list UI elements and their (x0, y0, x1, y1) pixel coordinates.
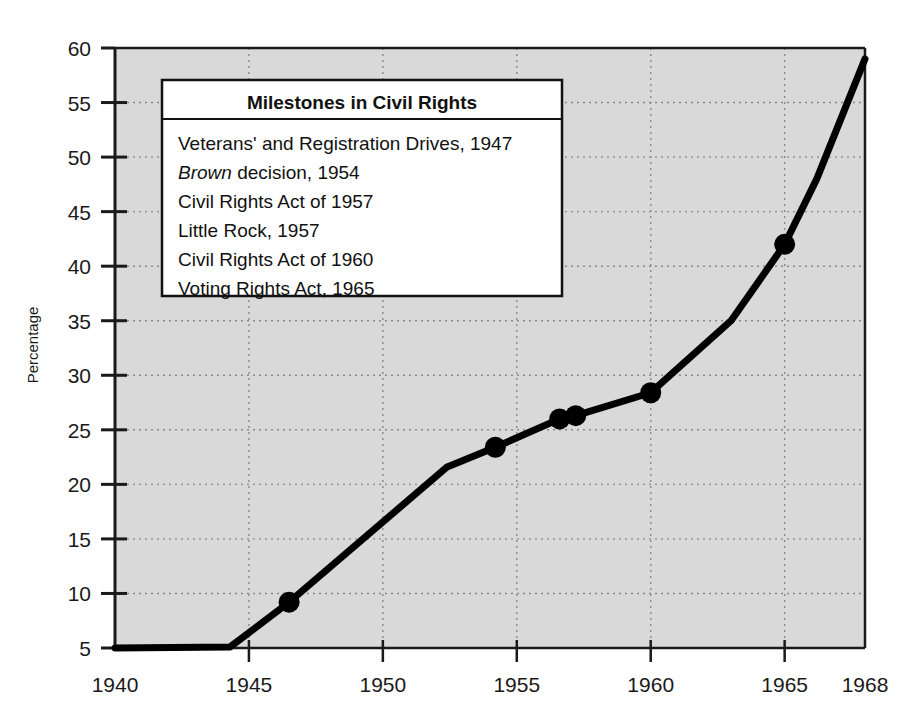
legend-item: Veterans' and Registration Drives, 1947 (178, 133, 512, 154)
y-tick-label: 30 (68, 364, 91, 387)
x-tick-label: 1940 (92, 673, 139, 696)
y-tick-label: 45 (68, 201, 91, 224)
x-tick-label: 1968 (842, 673, 889, 696)
legend-item: Voting Rights Act, 1965 (178, 278, 374, 299)
y-tick-label: 20 (68, 473, 91, 496)
legend-item: Civil Rights Act of 1957 (178, 191, 373, 212)
y-tick-label: 40 (68, 255, 91, 278)
legend-item: Civil Rights Act of 1960 (178, 249, 373, 270)
data-point-marker (485, 437, 506, 458)
data-point-marker (774, 234, 795, 255)
y-tick-label: 5 (79, 637, 91, 660)
x-tick-label: 1960 (627, 673, 674, 696)
x-tick-label: 1950 (359, 673, 406, 696)
x-tick-label: 1955 (493, 673, 540, 696)
legend-title: Milestones in Civil Rights (247, 92, 477, 113)
data-point-marker (640, 382, 661, 403)
legend-item: Little Rock, 1957 (178, 220, 320, 241)
chart-container: 51015202530354045505560 1940194519501955… (0, 0, 922, 708)
y-tick-label: 60 (68, 37, 91, 60)
legend-item-text: decision, 1954 (237, 162, 360, 183)
x-tick-label: 1965 (761, 673, 808, 696)
data-point-marker (565, 405, 586, 426)
y-axis-title: Percentage (24, 307, 41, 384)
legend-box: Milestones in Civil Rights Veterans' and… (162, 80, 562, 299)
data-point-marker (279, 592, 300, 613)
y-tick-label: 55 (68, 92, 91, 115)
y-tick-label: 10 (68, 582, 91, 605)
y-tick-label: 25 (68, 419, 91, 442)
x-tick-label: 1945 (226, 673, 273, 696)
y-tick-label: 35 (68, 310, 91, 333)
y-tick-label: 15 (68, 528, 91, 551)
legend-item-italic: Brown (178, 162, 237, 183)
legend-item: Brown decision, 1954 (178, 162, 360, 183)
line-chart-svg: 51015202530354045505560 1940194519501955… (0, 0, 922, 708)
y-tick-label: 50 (68, 146, 91, 169)
